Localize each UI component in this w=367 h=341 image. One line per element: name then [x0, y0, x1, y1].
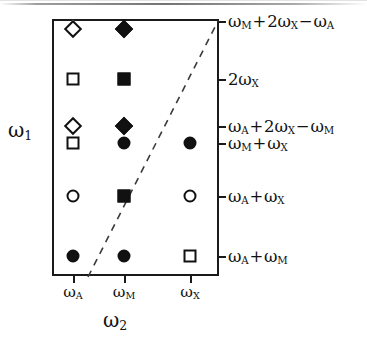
y-tick-mark-1 — [219, 21, 226, 23]
y-tick-mark-5 — [219, 196, 226, 198]
y-axis-title: ω1 — [8, 118, 32, 142]
omega-glyph: ω — [228, 247, 241, 266]
subscript-x: X — [280, 142, 287, 153]
figure-panel: ω1 ωM+2ωX−ωA 2ωX ωA+2ωX−ωM ωM+ωX ωA+ωX ω… — [0, 0, 367, 341]
data-point-circle-filled — [184, 137, 197, 150]
y-tick-mark-3 — [219, 126, 226, 128]
y-tick-label-6: ωA+ωM — [228, 247, 288, 266]
minus-glyph: − — [298, 12, 314, 31]
omega-glyph: ω — [63, 283, 76, 301]
subscript-a: A — [241, 255, 248, 266]
subscript-m: M — [241, 20, 251, 31]
subscript-x: X — [277, 195, 284, 206]
subscript-x: X — [252, 78, 259, 89]
y-tick-label-1: ωM+2ωX−ωA — [228, 12, 334, 31]
y-tick-label-4: ωM+ωX — [228, 134, 288, 153]
omega-glyph: ω — [264, 187, 277, 206]
omega-glyph: ω — [228, 187, 241, 206]
omega-glyph: ω — [8, 118, 24, 142]
y-tick-mark-6 — [219, 256, 226, 258]
data-point-circle-filled — [118, 137, 131, 150]
x-tick-mark-1 — [73, 276, 75, 283]
data-point-square-open — [67, 73, 80, 86]
minus-glyph: − — [295, 117, 311, 136]
scan-artifact-line — [0, 3, 367, 5]
data-point-circle-open — [67, 190, 80, 203]
omega-glyph: ω — [267, 134, 280, 153]
omega-glyph: ω — [180, 283, 193, 301]
data-point-square-open — [67, 137, 80, 150]
x-axis-title-subscript: 2 — [119, 318, 127, 333]
omega-glyph: ω — [238, 70, 251, 89]
data-point-square-open — [184, 250, 197, 263]
coefficient-two: 2 — [267, 12, 277, 31]
x-tick-label-1: ωA — [63, 283, 83, 301]
subscript-m: M — [324, 125, 334, 136]
data-point-circle-open — [184, 190, 197, 203]
subscript-m: M — [241, 142, 251, 153]
omega-glyph: ω — [103, 308, 119, 332]
subscript-x: X — [193, 290, 200, 301]
plus-glyph: + — [252, 12, 268, 31]
x-tick-mark-2 — [124, 276, 126, 283]
x-tick-mark-3 — [190, 276, 192, 283]
plus-glyph: + — [248, 187, 264, 206]
omega-glyph: ω — [113, 283, 126, 301]
omega-glyph: ω — [228, 12, 241, 31]
y-tick-label-5: ωA+ωX — [228, 187, 284, 206]
coefficient-two: 2 — [228, 70, 238, 89]
y-axis-title-subscript: 1 — [24, 128, 32, 143]
y-tick-mark-2 — [219, 79, 226, 81]
subscript-m: M — [125, 290, 135, 301]
subscript-x: X — [291, 20, 298, 31]
omega-glyph: ω — [228, 134, 241, 153]
data-point-square-filled — [118, 190, 131, 203]
subscript-m: M — [277, 255, 287, 266]
plus-glyph: + — [248, 247, 264, 266]
x-axis-title: ω2 — [103, 308, 127, 332]
omega-glyph: ω — [277, 12, 290, 31]
data-point-square-filled — [118, 73, 131, 86]
x-tick-label-2: ωM — [113, 283, 135, 301]
y-tick-mark-4 — [219, 143, 226, 145]
omega-glyph: ω — [310, 117, 323, 136]
subscript-a: A — [76, 290, 83, 301]
subscript-a: A — [327, 20, 334, 31]
omega-glyph: ω — [313, 12, 326, 31]
data-point-circle-filled — [67, 250, 80, 263]
data-point-circle-filled — [118, 250, 131, 263]
x-tick-label-3: ωX — [180, 283, 199, 301]
omega-glyph: ω — [264, 247, 277, 266]
scan-artifact-hairline — [0, 0, 367, 1]
subscript-x: X — [288, 125, 295, 136]
subscript-a: A — [241, 195, 248, 206]
plus-glyph: + — [252, 134, 268, 153]
y-tick-label-2: 2ωX — [228, 70, 259, 89]
